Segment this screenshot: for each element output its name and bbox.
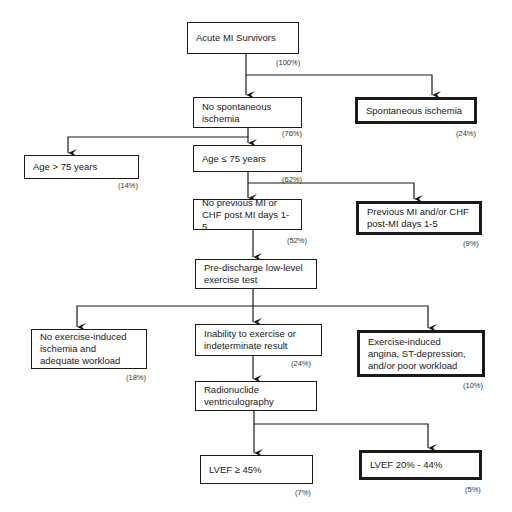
- node-label: No spontaneous ischemia: [202, 101, 293, 125]
- node-inability-to-exercise: Inability to exercise or indeterminate r…: [195, 324, 322, 356]
- node-label: LVEF ≥ 45%: [209, 464, 262, 476]
- node-label: Exercise-induced angina, ST-depression, …: [368, 336, 474, 372]
- node-percentage: (76%): [282, 129, 302, 138]
- node-label: Pre-discharge low-level exercise test: [204, 262, 308, 286]
- node-percentage: (62%): [282, 175, 302, 184]
- node-percentage: (9%): [463, 239, 479, 248]
- node-label: No exercise-induced ischemia and adequat…: [40, 331, 138, 367]
- node-label: Age > 75 years: [33, 161, 97, 173]
- node-percentage: (7%): [295, 488, 311, 497]
- node-age-over-75: Age > 75 years: [24, 155, 139, 179]
- node-predischarge-exercise-test: Pre-discharge low-level exercise test: [195, 259, 317, 289]
- connector-lines: [0, 0, 512, 512]
- node-exercise-induced-angina: Exercise-induced angina, ST-depression, …: [357, 330, 485, 377]
- node-no-previous-mi: No previous MI or CHF post MI days 1-5: [193, 199, 302, 230]
- node-age-75-or-under: Age ≤ 75 years: [193, 145, 302, 172]
- node-label: No previous MI or CHF post MI days 1-5: [202, 197, 293, 233]
- node-percentage: (52%): [287, 236, 307, 245]
- node-percentage: (24%): [456, 129, 476, 138]
- node-lvef-20-44: LVEF 20% - 44%: [359, 450, 482, 480]
- node-label: Radionuclide ventriculography: [204, 384, 308, 408]
- node-percentage: (10%): [463, 381, 483, 390]
- node-label: LVEF 20% - 44%: [370, 459, 442, 471]
- node-radionuclide-ventriculography: Radionuclide ventriculography: [195, 381, 317, 411]
- node-label: Previous MI and/or CHF post-MI days 1-5: [367, 206, 471, 230]
- node-percentage: (18%): [126, 373, 146, 382]
- node-percentage: (24%): [291, 359, 311, 368]
- node-previous-mi: Previous MI and/or CHF post-MI days 1-5: [356, 201, 482, 235]
- node-percentage: (14%): [118, 181, 138, 190]
- node-percentage: (100%): [276, 58, 300, 67]
- node-label: Age ≤ 75 years: [202, 153, 266, 165]
- node-label: Acute MI Survivors: [196, 32, 276, 44]
- node-label: Spontaneous ischemia: [366, 105, 462, 117]
- node-no-exercise-induced-ischemia: No exercise-induced ischemia and adequat…: [31, 329, 147, 369]
- node-acute-mi-survivors: Acute MI Survivors: [187, 22, 299, 54]
- node-no-spontaneous-ischemia: No spontaneous ischemia: [193, 97, 302, 128]
- node-spontaneous-ischemia: Spontaneous ischemia: [355, 97, 477, 124]
- node-lvef-45-or-more: LVEF ≥ 45%: [200, 455, 313, 484]
- node-percentage: (5%): [465, 485, 481, 494]
- node-label: Inability to exercise or indeterminate r…: [204, 328, 313, 352]
